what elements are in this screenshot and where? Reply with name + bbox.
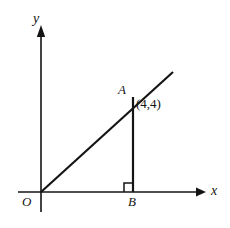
coordinate-geometry-figure: y x O A B (4,4)	[0, 0, 230, 228]
x-axis-arrowhead-icon	[196, 188, 206, 197]
point-a-label: A	[118, 83, 126, 96]
point-b-label: B	[128, 195, 136, 208]
origin-label: O	[22, 195, 31, 208]
y-axis-arrowhead-icon	[37, 25, 45, 37]
right-angle-marker-icon	[124, 183, 133, 192]
point-a-coordinates-label: (4,4)	[136, 97, 161, 110]
x-axis-label: x	[211, 184, 217, 198]
y-axis-label: y	[33, 12, 39, 26]
figure-canvas	[0, 0, 230, 228]
ray-oa-line	[41, 72, 173, 192]
